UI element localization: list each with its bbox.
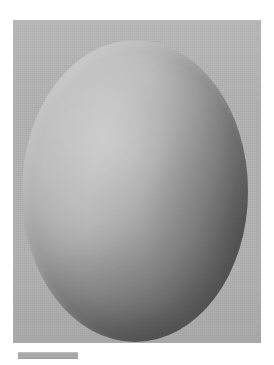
render-viewport-panel bbox=[13, 20, 261, 343]
terminator-shadow bbox=[22, 40, 248, 342]
specular-highlight bbox=[58, 82, 176, 209]
figure-root bbox=[0, 0, 274, 365]
caption-rule-bar bbox=[18, 352, 78, 359]
shaded-ellipsoid-object bbox=[22, 40, 248, 342]
object-grain-texture bbox=[22, 40, 248, 342]
rim-light bbox=[22, 40, 248, 342]
